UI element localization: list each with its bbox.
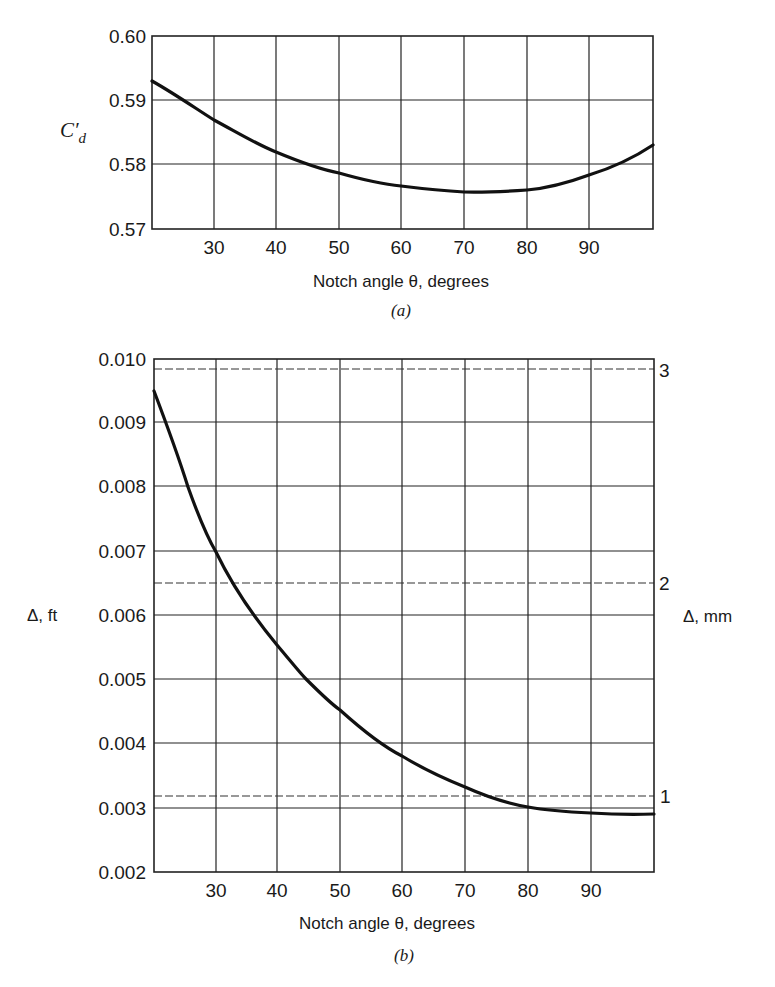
chart-a-y-ticks: 0.60 0.59 0.58 0.57: [109, 26, 146, 240]
x-tick-label: 40: [266, 880, 287, 901]
chart-a-x-ticks: 30 40 50 60 70 80 90: [203, 237, 599, 258]
chart-b-y-ticks: 0.010 0.009 0.008 0.007 0.006 0.005 0.00…: [98, 349, 146, 883]
x-tick-label: 30: [205, 880, 226, 901]
x-tick-label: 70: [454, 880, 475, 901]
y-tick-label: 0.003: [98, 798, 146, 819]
chart-a-y-axis-label: C′d: [60, 118, 87, 146]
mm-tick-label: 3: [659, 360, 670, 381]
chart-a: 0.60 0.59 0.58 0.57 30 40 50 60 70 80 90…: [60, 26, 653, 320]
x-tick-label: 60: [390, 237, 411, 258]
chart-a-frame: [152, 36, 653, 229]
y-tick-label: 0.58: [109, 154, 146, 175]
chart-a-curve: [152, 81, 653, 192]
chart-b-x-ticks: 30 40 50 60 70 80 90: [205, 880, 601, 901]
chart-b-mm-reference-lines: [154, 369, 654, 796]
chart-b-y-axis-label-right: Δ, mm: [683, 607, 732, 626]
chart-b-mm-ticks: 3 2 1: [659, 360, 671, 807]
x-tick-label: 40: [265, 237, 286, 258]
x-tick-label: 90: [578, 237, 599, 258]
y-tick-label: 0.007: [98, 541, 146, 562]
chart-b-grid: [154, 359, 654, 872]
chart-a-caption: (a): [391, 301, 411, 320]
y-tick-label: 0.008: [98, 476, 146, 497]
x-tick-label: 50: [328, 237, 349, 258]
chart-b-caption: (b): [394, 946, 414, 965]
figure: 0.60 0.59 0.58 0.57 30 40 50 60 70 80 90…: [0, 0, 775, 987]
x-tick-label: 30: [203, 237, 224, 258]
chart-a-grid: [152, 36, 653, 229]
chart-b: 0.010 0.009 0.008 0.007 0.006 0.005 0.00…: [27, 349, 732, 965]
y-tick-label: 0.006: [98, 605, 146, 626]
y-tick-label: 0.010: [98, 349, 146, 370]
y-tick-label: 0.009: [98, 412, 146, 433]
y-tick-label: 0.002: [98, 862, 146, 883]
x-tick-label: 90: [580, 880, 601, 901]
x-tick-label: 80: [517, 880, 538, 901]
mm-tick-label: 2: [659, 573, 670, 594]
mm-tick-label: 1: [660, 786, 671, 807]
y-tick-label: 0.59: [109, 90, 146, 111]
chart-b-y-axis-label-left: Δ, ft: [27, 606, 58, 625]
x-tick-label: 50: [329, 880, 350, 901]
chart-b-x-axis-label: Notch angle θ, degrees: [299, 914, 475, 933]
y-tick-label: 0.57: [109, 219, 146, 240]
y-tick-label: 0.004: [98, 733, 146, 754]
x-tick-label: 70: [453, 237, 474, 258]
chart-b-curve: [154, 391, 654, 814]
x-tick-label: 60: [391, 880, 412, 901]
y-tick-label: 0.60: [109, 26, 146, 47]
chart-a-x-axis-label: Notch angle θ, degrees: [313, 272, 489, 291]
y-tick-label: 0.005: [98, 669, 146, 690]
x-tick-label: 80: [516, 237, 537, 258]
